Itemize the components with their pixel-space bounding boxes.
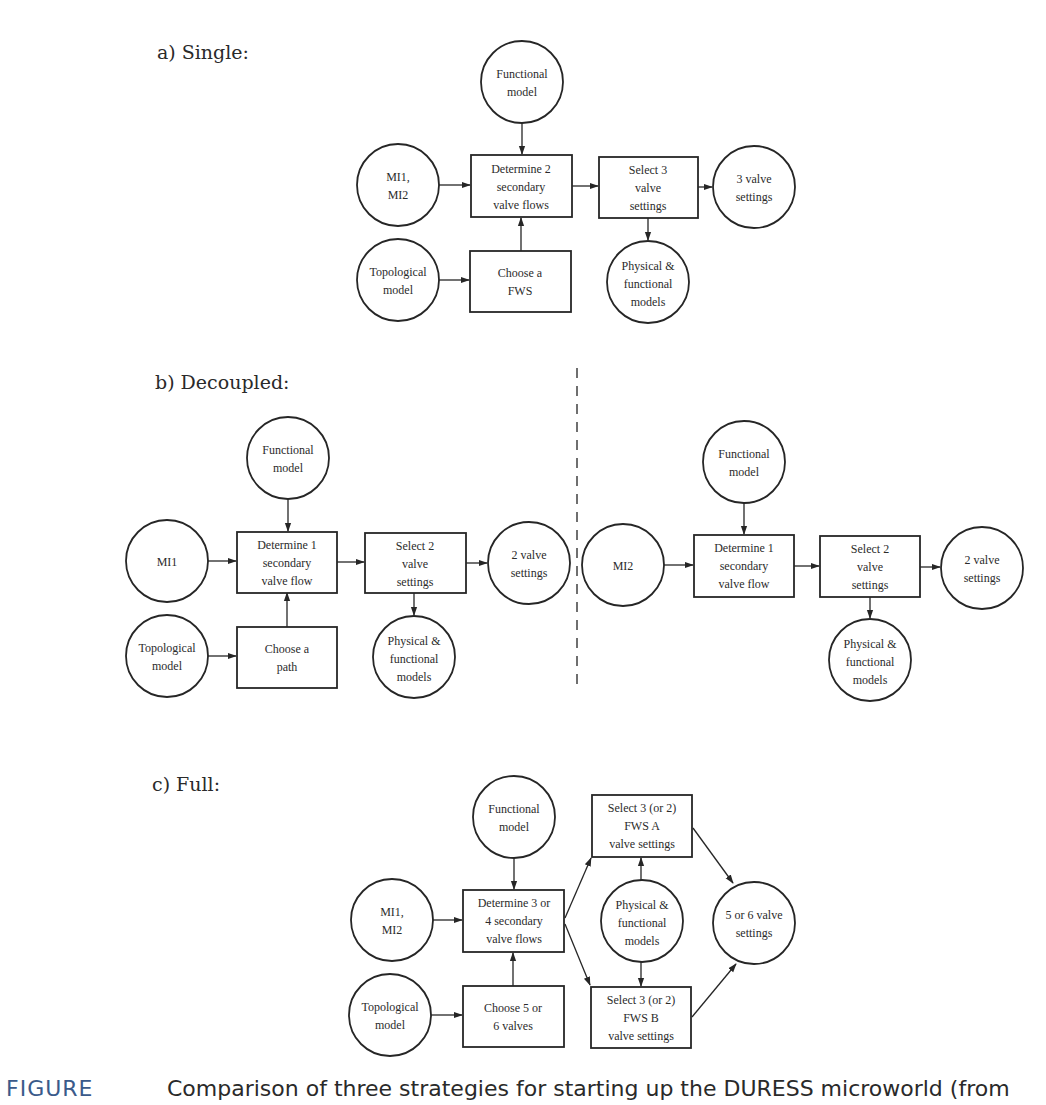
- figure-caption: FIGURE Comparison of three strategies fo…: [0, 1076, 1046, 1105]
- svg-text:Physical &: Physical &: [622, 259, 676, 273]
- svg-text:FWS B: FWS B: [623, 1011, 659, 1025]
- edge-c-select-b-to-output: [692, 964, 736, 1017]
- svg-text:secondary: secondary: [263, 556, 312, 570]
- svg-text:settings: settings: [736, 190, 773, 204]
- svg-text:settings: settings: [397, 575, 434, 589]
- svg-text:5 or 6 valve: 5 or 6 valve: [726, 908, 783, 922]
- svg-text:Choose 5 or: Choose 5 or: [484, 1001, 542, 1015]
- svg-text:settings: settings: [630, 199, 667, 213]
- node-c-determine-flows: Determine 3 or 4 secondary valve flows: [463, 890, 564, 952]
- node-c-mi1-mi2: MI1, MI2: [351, 879, 433, 961]
- node-b-left-select-settings: Select 2 valve settings: [365, 533, 466, 593]
- svg-text:6 valves: 6 valves: [493, 1019, 533, 1033]
- section-c-label: c) Full:: [152, 773, 220, 795]
- node-b-left-functional-model: Functional model: [247, 417, 329, 499]
- svg-text:path: path: [277, 660, 298, 674]
- svg-text:settings: settings: [852, 578, 889, 592]
- svg-text:model: model: [273, 461, 304, 475]
- svg-text:functional: functional: [618, 916, 667, 930]
- svg-text:models: models: [853, 673, 888, 687]
- svg-text:Functional: Functional: [718, 447, 770, 461]
- svg-text:MI2: MI2: [388, 188, 409, 202]
- svg-text:Determine 3 or: Determine 3 or: [478, 896, 551, 910]
- svg-text:valve: valve: [857, 560, 883, 574]
- node-topological-model: Topological model: [357, 239, 439, 321]
- svg-text:settings: settings: [511, 566, 548, 580]
- node-b-left-topological-model: Topological model: [126, 615, 208, 697]
- node-b-right-select-settings: Select 2 valve settings: [820, 536, 920, 597]
- svg-text:Determine 1: Determine 1: [257, 538, 317, 552]
- svg-text:Topological: Topological: [138, 641, 196, 655]
- svg-text:Determine 2: Determine 2: [491, 162, 551, 176]
- svg-text:FWS A: FWS A: [624, 819, 660, 833]
- svg-text:Physical &: Physical &: [388, 634, 442, 648]
- svg-text:secondary: secondary: [720, 559, 769, 573]
- svg-text:models: models: [397, 670, 432, 684]
- svg-text:valve: valve: [635, 181, 661, 195]
- figure-caption-text: Comparison of three strategies for start…: [167, 1076, 1010, 1101]
- svg-text:functional: functional: [390, 652, 439, 666]
- node-b-right-functional-model: Functional model: [703, 421, 785, 503]
- svg-text:valve: valve: [402, 557, 428, 571]
- node-b-right-determine-flow: Determine 1 secondary valve flow: [694, 535, 794, 597]
- figure-tag: FIGURE: [6, 1076, 93, 1101]
- section-a-single: a) Single: Functional model MI1, MI2 Top…: [157, 41, 795, 323]
- svg-text:2 valve: 2 valve: [965, 553, 1000, 567]
- svg-text:Physical &: Physical &: [616, 898, 670, 912]
- svg-text:Select 3 (or 2): Select 3 (or 2): [607, 993, 675, 1007]
- node-c-select-fws-a: Select 3 (or 2) FWS A valve settings: [592, 795, 692, 857]
- svg-text:Determine 1: Determine 1: [714, 541, 774, 555]
- node-b-left-output-settings: 2 valve settings: [488, 522, 570, 604]
- svg-text:model: model: [729, 465, 760, 479]
- svg-text:Topological: Topological: [361, 1000, 419, 1014]
- node-c-output-settings: 5 or 6 valve settings: [713, 882, 795, 964]
- node-b-right-output-settings: 2 valve settings: [941, 527, 1023, 609]
- svg-text:valve flow: valve flow: [262, 574, 313, 588]
- edge-c-determine-to-select-b: [565, 924, 590, 985]
- svg-text:valve settings: valve settings: [608, 1029, 674, 1043]
- svg-text:models: models: [631, 295, 666, 309]
- section-a-label: a) Single:: [157, 41, 249, 63]
- node-b-right-physical-functional-models: Physical & functional models: [829, 619, 911, 701]
- node-output-settings: 3 valve settings: [713, 146, 795, 228]
- svg-text:settings: settings: [964, 571, 1001, 585]
- svg-text:functional: functional: [624, 277, 673, 291]
- edge-c-determine-to-select-a: [565, 858, 591, 918]
- svg-text:Select 3 (or 2): Select 3 (or 2): [608, 801, 676, 815]
- node-c-functional-model: Functional model: [473, 776, 555, 858]
- node-b-left-choose-path: Choose a path: [237, 627, 337, 688]
- svg-text:MI2: MI2: [613, 559, 634, 573]
- svg-text:4 secondary: 4 secondary: [485, 914, 543, 928]
- svg-text:models: models: [625, 934, 660, 948]
- svg-text:settings: settings: [736, 926, 773, 940]
- node-functional-model: Functional model: [481, 41, 563, 123]
- node-b-right-mi2: MI2: [582, 524, 664, 606]
- node-b-left-physical-functional-models: Physical & functional models: [373, 616, 455, 698]
- svg-text:model: model: [375, 1018, 406, 1032]
- section-c-full: c) Full: Functional model MI1, MI2 Topol…: [152, 773, 795, 1056]
- node-c-choose-valves: Choose 5 or 6 valves: [463, 986, 564, 1047]
- svg-text:Select 3: Select 3: [629, 163, 667, 177]
- svg-text:valve flows: valve flows: [493, 198, 549, 212]
- svg-text:Functional: Functional: [488, 802, 540, 816]
- svg-text:FWS: FWS: [508, 284, 533, 298]
- svg-text:Select 2: Select 2: [851, 542, 889, 556]
- svg-text:MI2: MI2: [382, 923, 403, 937]
- svg-text:MI1,: MI1,: [380, 905, 404, 919]
- svg-text:3 valve: 3 valve: [737, 172, 772, 186]
- node-b-left-mi1: MI1: [126, 520, 208, 602]
- svg-text:secondary: secondary: [497, 180, 546, 194]
- svg-text:Functional: Functional: [496, 67, 548, 81]
- svg-text:model: model: [383, 283, 414, 297]
- svg-text:Choose a: Choose a: [265, 642, 310, 656]
- svg-text:MI1,: MI1,: [386, 170, 410, 184]
- svg-text:Choose a: Choose a: [498, 266, 543, 280]
- svg-text:Physical &: Physical &: [844, 637, 898, 651]
- svg-text:model: model: [152, 659, 183, 673]
- svg-text:model: model: [499, 820, 530, 834]
- node-c-topological-model: Topological model: [349, 974, 431, 1056]
- svg-text:valve settings: valve settings: [609, 837, 675, 851]
- node-c-physical-functional-models: Physical & functional models: [601, 880, 683, 962]
- node-determine-flows: Determine 2 secondary valve flows: [471, 155, 572, 217]
- svg-text:MI1: MI1: [157, 555, 178, 569]
